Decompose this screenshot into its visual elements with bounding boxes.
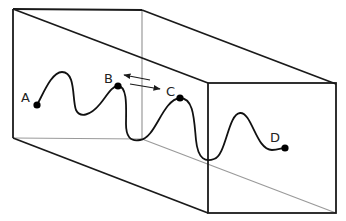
diagram-canvas: A B C D	[0, 0, 346, 221]
arrow-toward-c	[130, 84, 160, 89]
visible-edges	[13, 9, 336, 213]
wave-curve	[37, 72, 285, 160]
bottom-right-depth-edge	[142, 139, 336, 213]
point-d-marker	[281, 144, 288, 151]
hidden-edges	[13, 10, 336, 213]
top-right-depth-edge	[142, 10, 336, 84]
back-top-edge	[13, 9, 142, 10]
arrow-toward-b	[124, 75, 150, 80]
point-c-label: C	[166, 84, 175, 99]
bottom-left-depth-edge	[13, 138, 208, 213]
back-bottom-edge	[13, 138, 142, 139]
point-b-label: B	[104, 71, 113, 86]
box-diagram: A B C D	[0, 0, 346, 221]
point-a-marker	[33, 101, 40, 108]
point-a-label: A	[21, 90, 30, 105]
front-face	[208, 83, 336, 213]
point-d-label: D	[270, 130, 280, 145]
point-c-marker	[176, 94, 183, 101]
point-b-marker	[114, 82, 121, 89]
